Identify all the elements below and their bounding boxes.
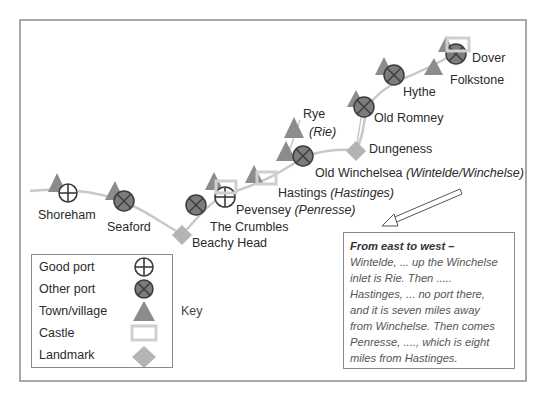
other-port-icon bbox=[293, 146, 313, 166]
other-port-icon bbox=[186, 195, 206, 215]
label-beachy-head: Beachy Head bbox=[192, 236, 267, 250]
quote-heading: From east to west – bbox=[350, 238, 508, 254]
other-port-icon bbox=[384, 65, 404, 85]
label-dover: Dover bbox=[472, 51, 505, 65]
quote-line: Wintelde, ... up the Winchelse bbox=[350, 254, 508, 270]
other-port-icon bbox=[114, 191, 134, 211]
label-folkstone: Folkstone bbox=[450, 73, 504, 87]
town-triangle bbox=[284, 117, 304, 138]
label-dungeness: Dungeness bbox=[369, 142, 432, 156]
other-port-icon bbox=[446, 44, 466, 64]
label-hastings: Hastings (Hastinges) bbox=[278, 186, 394, 200]
quote-line: and it is seven miles away bbox=[350, 302, 508, 318]
quote-line: from Winchelse. Then comes bbox=[350, 318, 508, 334]
quote-line: inlet is Rie. Then ..... bbox=[350, 270, 508, 286]
quote-line: Penresse, ...., which is eight bbox=[350, 334, 508, 350]
legend-good-port-label: Good port bbox=[39, 260, 95, 274]
good-port-icon bbox=[215, 187, 235, 207]
legend-town-label: Town/village bbox=[39, 304, 107, 318]
legend-other-port-label: Other port bbox=[39, 282, 95, 296]
legend-title: Key bbox=[181, 304, 203, 318]
label-the-crumbles: The Crumbles bbox=[210, 220, 289, 234]
other-port-icon bbox=[354, 97, 374, 117]
legend-landmark-label: Landmark bbox=[39, 348, 95, 362]
label-shoreham: Shoreham bbox=[38, 208, 96, 222]
legend-box: Good port Other port Town/village Castle… bbox=[31, 254, 173, 368]
quote-line: miles from Hastinges. bbox=[350, 350, 508, 366]
legend-castle-label: Castle bbox=[39, 326, 74, 340]
label-pevensey: Pevensey (Penresse) bbox=[236, 203, 356, 217]
label-old-romney: Old Romney bbox=[374, 111, 443, 125]
town-triangle bbox=[245, 165, 263, 183]
label-old-winchelsea: Old Winchelsea (Wintelde/Winchelse) bbox=[315, 166, 524, 180]
quote-line: Hastinges, ... no port there, bbox=[350, 286, 508, 302]
label-hythe: Hythe bbox=[403, 85, 436, 99]
landmark-diamond bbox=[346, 141, 366, 161]
quote-box: From east to west – Wintelde, ... up the… bbox=[343, 232, 515, 369]
label-rye: Rye bbox=[303, 107, 325, 121]
label-seaford: Seaford bbox=[107, 220, 151, 234]
label-rye-alt: (Rie) bbox=[309, 125, 336, 139]
good-port-icon bbox=[59, 184, 77, 202]
